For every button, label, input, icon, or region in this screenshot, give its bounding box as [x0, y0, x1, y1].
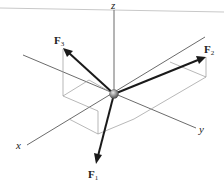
z-axis-label: z: [110, 0, 116, 11]
force-f1-vector: [94, 94, 114, 164]
force-f3-label: F3: [54, 34, 65, 48]
particle-sphere: [110, 90, 119, 99]
f1-guide-box: [69, 111, 134, 134]
force-f2-vector: [114, 56, 206, 94]
x-axis-label: x: [15, 139, 21, 151]
f2-guide-box: [134, 57, 206, 119]
force-f1-label: F1: [88, 168, 99, 182]
f3-guide-box: [63, 49, 114, 111]
y-axis-label: y: [198, 123, 204, 135]
force-f3-vector: [63, 48, 114, 94]
force-f2-label: F2: [204, 43, 215, 57]
force-diagram: z x y F3 F2 F1: [0, 0, 224, 190]
